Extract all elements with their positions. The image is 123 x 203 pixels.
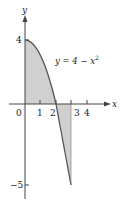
x-tick-label-4: 4 <box>84 108 90 118</box>
x-tick-label-2: 2 <box>50 108 56 118</box>
shaded-region-positive <box>25 40 56 104</box>
y-tick-label-neg5: −5 <box>10 180 24 190</box>
x-tick-label-3: 3 <box>74 108 80 118</box>
y-axis-arrow-icon <box>23 15 28 22</box>
x-axis-arrow-icon <box>104 102 111 107</box>
y-tick-label-4: 4 <box>16 35 22 45</box>
x-axis-label: x <box>112 99 117 109</box>
x-tick-label-0: 0 <box>16 108 22 118</box>
equation-label: y = 4 − x2 <box>54 54 99 66</box>
equation-exponent: 2 <box>95 54 99 61</box>
x-tick-label-1: 1 <box>37 108 43 118</box>
graph-figure: y x 0 1 2 3 4 4 −5 y = 4 − x2 <box>0 0 123 203</box>
equation-text: y = 4 − x <box>54 56 95 66</box>
y-axis-label: y <box>21 5 28 15</box>
